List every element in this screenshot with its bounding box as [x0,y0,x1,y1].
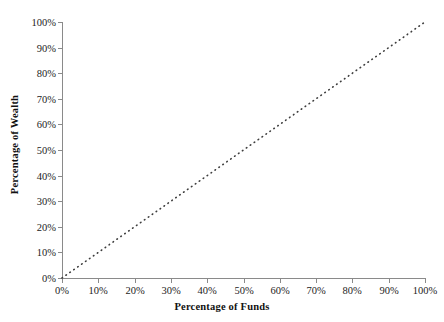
series-line-equality [62,22,425,278]
y-axis-title: Percentage of Wealth [9,65,20,225]
series-layer [0,0,444,322]
lorenz-curve-chart: 0%10%20%30%40%50%60%70%80%90%100% 0%10%2… [0,0,444,322]
x-axis-title: Percentage of Funds [0,301,444,312]
